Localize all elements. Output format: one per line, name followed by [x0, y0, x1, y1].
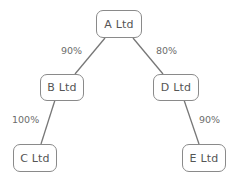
edge-label-a-b: 90%	[61, 45, 82, 56]
edge-label-d-e: 90%	[199, 114, 220, 125]
edge-label-a-d: 80%	[156, 45, 177, 56]
node-e-ltd: E Ltd	[182, 144, 226, 172]
edge-label-b-c: 100%	[12, 114, 39, 125]
edge-d-e	[184, 100, 199, 144]
edge-a-b	[75, 38, 105, 74]
node-c-ltd: C Ltd	[13, 144, 57, 172]
node-b-ltd: B Ltd	[40, 74, 84, 101]
edge-a-d	[133, 38, 163, 74]
edge-b-c	[41, 100, 55, 144]
node-d-ltd: D Ltd	[153, 74, 199, 101]
node-a-ltd: A Ltd	[96, 10, 142, 38]
